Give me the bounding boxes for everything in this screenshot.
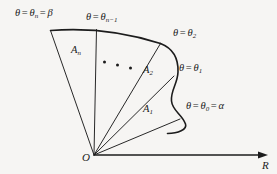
ellipsis-dots <box>103 61 132 70</box>
radial-axis <box>94 151 268 158</box>
label-theta-n: θ=θn=β <box>15 8 53 20</box>
label-region-A-1: A1 <box>143 104 153 116</box>
ray-theta-0 <box>94 119 180 155</box>
label-theta-0: θ=θ0=α <box>186 101 224 113</box>
ellipsis-dot <box>129 67 132 70</box>
outer-boundary-top-arc <box>51 30 161 44</box>
label-theta-2: θ=θ2 <box>173 28 196 40</box>
radial-axis-label: R <box>262 160 269 171</box>
polar-sector-diagram: θ=θn=β θ=θn−1 θ=θ2 θ=θ1 θ=θ0=α An A2 A1 … <box>0 0 277 174</box>
ellipsis-dot <box>116 64 119 67</box>
origin-label: O <box>82 152 90 163</box>
diagram-canvas <box>0 0 277 174</box>
ray-group <box>51 30 181 156</box>
label-region-A-2: A2 <box>143 65 153 77</box>
ray-theta-n-minus-1 <box>94 30 97 156</box>
radial-axis-arrowhead <box>258 151 268 158</box>
label-theta-n-minus-1: θ=θn−1 <box>86 12 117 24</box>
label-theta-1: θ=θ1 <box>179 63 202 75</box>
outer-boundary-right-curve <box>161 44 186 134</box>
label-region-A-n: An <box>71 45 81 57</box>
ellipsis-dot <box>103 61 106 64</box>
